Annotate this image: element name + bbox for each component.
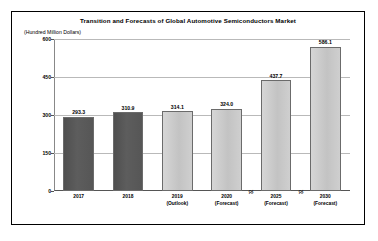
plot-area: 0150300450600 293.32017310.92018314.1201… bbox=[54, 39, 350, 191]
bar-group[interactable]: 310.92018 bbox=[113, 39, 144, 191]
bar-value-label: 324.0 bbox=[220, 101, 233, 107]
bar-group[interactable]: 293.32017 bbox=[63, 39, 94, 191]
x-axis-category-label: 2030(Forecast) bbox=[295, 194, 355, 207]
bar-value-label: 586.1 bbox=[319, 39, 332, 45]
bar-group[interactable]: 324.02020(Forecast) bbox=[211, 39, 242, 191]
x-axis-year: 2017 bbox=[73, 194, 84, 199]
y-axis-tick-label: 600 bbox=[43, 36, 52, 42]
bar[interactable] bbox=[63, 117, 94, 191]
x-axis-category-note: (Forecast) bbox=[295, 201, 355, 208]
gridline bbox=[54, 39, 350, 40]
bar-value-label: 310.9 bbox=[122, 105, 135, 111]
bar[interactable] bbox=[261, 80, 292, 191]
x-axis-year: 2020 bbox=[221, 194, 232, 199]
bar-value-label: 437.7 bbox=[270, 73, 283, 79]
gridline bbox=[54, 153, 350, 154]
x-axis-year: 2019 bbox=[172, 194, 183, 199]
bar-group[interactable]: 314.12019(Outlook) bbox=[162, 39, 193, 191]
x-axis-year: 2018 bbox=[123, 194, 134, 199]
axis-break-icon: ≈ bbox=[298, 188, 304, 198]
x-axis-year: 2030 bbox=[320, 194, 331, 199]
gridline bbox=[54, 115, 350, 116]
bar-group[interactable]: 437.72025(Forecast) bbox=[261, 39, 292, 191]
y-axis-tick-label: 150 bbox=[43, 150, 52, 156]
bar[interactable] bbox=[211, 109, 242, 191]
y-axis-tick-label: 450 bbox=[43, 74, 52, 80]
y-axis-tick-mark bbox=[51, 191, 54, 192]
x-axis-year: 2025 bbox=[271, 194, 282, 199]
chart-title: Transition and Forecasts of Global Autom… bbox=[12, 17, 364, 24]
bar[interactable] bbox=[162, 111, 193, 191]
gridline bbox=[54, 77, 350, 78]
chart-figure: Transition and Forecasts of Global Autom… bbox=[11, 11, 365, 225]
bar-value-label: 314.1 bbox=[171, 104, 184, 110]
bar[interactable] bbox=[113, 112, 144, 191]
y-axis-unit-label: (Hundred Million Dollars) bbox=[24, 29, 81, 35]
y-axis-tick-label: 300 bbox=[43, 112, 52, 118]
bar[interactable] bbox=[310, 47, 341, 192]
bar-value-label: 293.3 bbox=[72, 109, 85, 115]
bar-group[interactable]: 586.12030(Forecast) bbox=[310, 39, 341, 191]
